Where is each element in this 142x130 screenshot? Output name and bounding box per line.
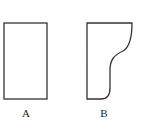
diagram-canvas: A B [0,0,142,130]
shape-b-label: B [100,107,107,119]
shape-b-curved-profile [87,23,132,99]
shape-a-rectangle [4,23,47,99]
shape-a-label: A [22,107,30,119]
